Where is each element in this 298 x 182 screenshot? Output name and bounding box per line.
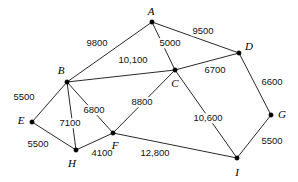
edge-weight-label-b-e: 5500 (12, 92, 35, 102)
graph-node-h (74, 148, 78, 152)
edge-weight-label-b-f: 6800 (82, 105, 105, 115)
graph-node-c (173, 68, 177, 72)
graph-node-i (235, 156, 239, 160)
node-label-e: E (18, 115, 25, 126)
nodes-layer (30, 20, 273, 160)
edge-weight-label-c-f: 8800 (130, 97, 153, 107)
node-label-g: G (278, 109, 286, 120)
graph-edge-a-b (67, 22, 152, 82)
node-label-d: D (245, 41, 253, 52)
graph-node-d (237, 51, 241, 55)
edge-weight-label-b-c: 10,100 (117, 55, 148, 65)
edge-weight-label-f-h: 4100 (90, 148, 113, 158)
graph-edge-b-c (67, 70, 175, 82)
graph-edge-b-h (67, 82, 76, 150)
edge-weight-label-e-h: 5500 (26, 139, 49, 149)
node-label-f: F (112, 140, 119, 151)
edge-weight-label-c-d: 6700 (203, 65, 226, 75)
edge-weight-label-a-c: 5000 (158, 38, 181, 48)
graph-node-e (30, 120, 34, 124)
edge-weight-label-c-i: 10,600 (192, 113, 223, 123)
graph-node-b (65, 80, 69, 84)
graph-edge-f-i (113, 133, 237, 158)
graph-node-g (269, 113, 273, 117)
edges-layer (32, 22, 271, 158)
edge-weight-label-g-i: 5500 (260, 136, 283, 146)
weighted-graph-diagram: 98005000950010,1005500680071006700880010… (0, 0, 298, 182)
edge-weight-label-a-b: 9800 (85, 38, 108, 48)
node-label-b: B (58, 65, 65, 76)
node-label-c: C (171, 78, 178, 89)
node-label-i: I (235, 167, 239, 178)
node-label-a: A (148, 6, 155, 17)
edge-weight-label-d-g: 6600 (260, 77, 283, 87)
edge-weight-label-b-h: 7100 (58, 118, 81, 128)
graph-node-a (150, 20, 154, 24)
edge-weight-label-f-i: 12,800 (139, 148, 170, 158)
node-label-h: H (68, 158, 76, 169)
graph-node-f (111, 131, 115, 135)
edge-weight-label-a-d: 9500 (191, 26, 214, 36)
graph-edge-b-e (32, 82, 67, 122)
